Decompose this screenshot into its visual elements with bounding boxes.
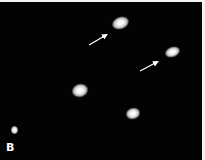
- fluorescent-spot: [163, 45, 181, 60]
- fluorescent-spot: [11, 126, 18, 134]
- annotation-arrows: [0, 2, 202, 160]
- fluorescent-spot: [71, 82, 90, 99]
- panel-label: B: [6, 142, 14, 153]
- arrow-icon: [140, 62, 158, 72]
- arrow-icon: [89, 35, 107, 46]
- micrograph-panel: B: [0, 2, 202, 160]
- fluorescent-spot: [125, 106, 141, 120]
- fluorescent-spot: [110, 14, 130, 31]
